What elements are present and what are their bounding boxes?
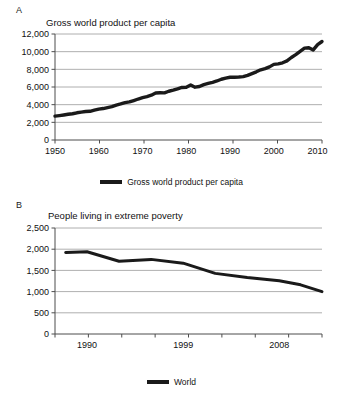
x-axis-tick-label: 1980 bbox=[176, 146, 196, 156]
x-axis-tick-label: 1990 bbox=[220, 146, 240, 156]
y-axis-tick-label: 4,000 bbox=[26, 100, 49, 110]
chart-panel-b: B People living in extreme poverty 05001… bbox=[0, 196, 343, 403]
plot-area-b: 05001,0001,5002,0002,500199019992008 bbox=[0, 222, 343, 350]
y-axis-tick-label: 1,500 bbox=[26, 266, 49, 276]
line-chart-extreme-poverty: 05001,0001,5002,0002,500199019992008 bbox=[0, 222, 343, 350]
y-axis-tick-label: 2,500 bbox=[26, 223, 49, 233]
y-axis-tick-label: 0 bbox=[44, 329, 49, 339]
x-axis-tick-label: 1970 bbox=[133, 146, 153, 156]
legend-item-gwp: Gross world product per capita bbox=[100, 176, 243, 187]
legend-swatch-icon bbox=[100, 180, 122, 184]
plot-area-a: 02,0004,0006,0008,00010,00012,0001950196… bbox=[0, 28, 343, 158]
y-axis-tick-label: 6,000 bbox=[26, 82, 49, 92]
panel-label-b: B bbox=[16, 200, 22, 210]
x-axis-tick-label: 1960 bbox=[89, 146, 109, 156]
x-axis-tick-label: 2008 bbox=[269, 340, 289, 350]
x-axis-tick-label: 1999 bbox=[173, 340, 193, 350]
chart-legend-b: World bbox=[0, 376, 343, 387]
chart-panel-a: A Gross world product per capita 02,0004… bbox=[0, 0, 343, 196]
panel-label-a: A bbox=[16, 5, 22, 15]
y-axis-tick-label: 12,000 bbox=[21, 29, 49, 39]
chart-legend-a: Gross world product per capita bbox=[0, 176, 343, 187]
y-axis-tick-label: 8,000 bbox=[26, 65, 49, 75]
legend-item-world: World bbox=[147, 376, 196, 387]
y-axis-tick-label: 1,000 bbox=[26, 287, 49, 297]
y-axis-tick-label: 10,000 bbox=[21, 47, 49, 57]
x-axis-tick-label: 1950 bbox=[45, 146, 65, 156]
x-axis-tick-label: 2010 bbox=[308, 146, 328, 156]
line-chart-gross-world-product: 02,0004,0006,0008,00010,00012,0001950196… bbox=[0, 28, 343, 158]
legend-swatch-icon bbox=[147, 380, 169, 384]
legend-label-gwp: Gross world product per capita bbox=[127, 177, 243, 187]
y-axis-tick-label: 2,000 bbox=[26, 118, 49, 128]
y-axis-tick-label: 2,000 bbox=[26, 244, 49, 254]
chart-title-a: Gross world product per capita bbox=[46, 17, 175, 28]
chart-title-b: People living in extreme poverty bbox=[48, 210, 183, 221]
y-axis-tick-label: 0 bbox=[44, 135, 49, 145]
data-series-line bbox=[66, 252, 322, 292]
legend-label-world: World bbox=[174, 377, 196, 387]
x-axis-tick-label: 1990 bbox=[77, 340, 97, 350]
x-axis-tick-label: 2000 bbox=[264, 146, 284, 156]
y-axis-tick-label: 500 bbox=[34, 308, 49, 318]
